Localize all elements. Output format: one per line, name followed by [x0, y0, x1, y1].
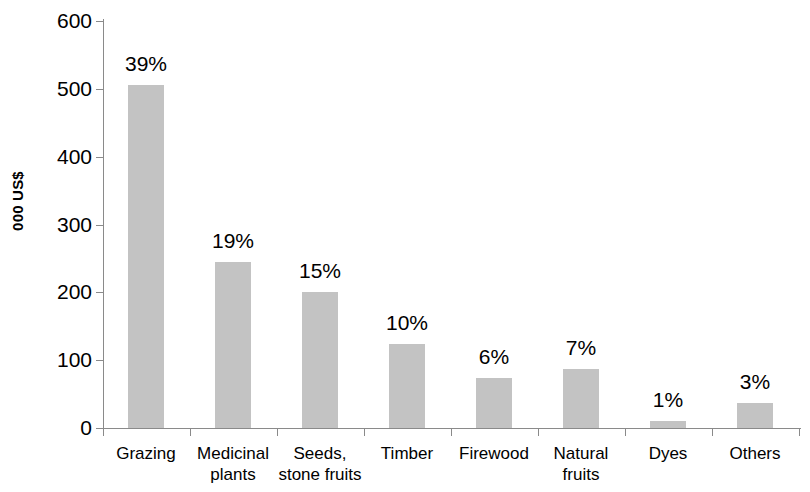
y-axis-tick-label: 0	[6, 417, 92, 438]
x-axis-category-label-4: Firewood	[445, 443, 544, 464]
bar-value-label-0: 39%	[101, 53, 191, 74]
bar-2	[302, 292, 338, 428]
x-axis-category-label-0: Grazing	[97, 443, 196, 464]
y-axis-tick-mark	[96, 292, 104, 293]
category-label-line: Firewood	[445, 443, 544, 464]
x-axis-category-label-1: Medicinalplants	[184, 443, 283, 485]
bar-0	[128, 85, 164, 428]
y-axis-tick-label: 600	[6, 10, 92, 31]
category-label-line: Others	[706, 443, 805, 464]
category-label-line: fruits	[532, 464, 631, 485]
category-label-line: Dyes	[619, 443, 718, 464]
bar-chart: 000 US$ 6005004003002001000 39%19%15%10%…	[0, 0, 810, 492]
x-axis-tick-mark	[625, 428, 626, 436]
bar-7	[737, 403, 773, 428]
x-axis-tick-mark	[538, 428, 539, 436]
y-axis-tick-mark	[96, 89, 104, 90]
x-axis-tick-mark	[799, 428, 800, 436]
category-label-line: Seeds,	[271, 443, 370, 464]
category-label-line: Timber	[358, 443, 457, 464]
bar-value-label-5: 7%	[536, 337, 626, 358]
bar-value-label-6: 1%	[623, 389, 713, 410]
plot-area: 6005004003002001000 39%19%15%10%6%7%1%3%…	[0, 0, 810, 492]
x-axis-line	[103, 428, 801, 429]
x-axis-category-label-7: Others	[706, 443, 805, 464]
x-axis-tick-mark	[712, 428, 713, 436]
bar-value-label-2: 15%	[275, 260, 365, 281]
category-label-line: Natural	[532, 443, 631, 464]
category-label-line: plants	[184, 464, 283, 485]
x-axis-tick-mark	[277, 428, 278, 436]
y-axis-tick-mark	[96, 360, 104, 361]
category-label-line: Medicinal	[184, 443, 283, 464]
y-axis-tick-label: 400	[6, 146, 92, 167]
category-label-line: Grazing	[97, 443, 196, 464]
bar-value-label-7: 3%	[710, 371, 800, 392]
category-label-line: stone fruits	[271, 464, 370, 485]
x-axis-tick-mark	[190, 428, 191, 436]
y-axis-tick-label: 300	[6, 214, 92, 235]
x-axis-tick-mark	[364, 428, 365, 436]
bar-6	[650, 421, 686, 428]
x-axis-category-label-6: Dyes	[619, 443, 718, 464]
y-axis-tick-mark	[96, 225, 104, 226]
bar-value-label-4: 6%	[449, 346, 539, 367]
x-axis-category-label-5: Naturalfruits	[532, 443, 631, 485]
x-axis-category-label-2: Seeds,stone fruits	[271, 443, 370, 485]
bar-value-label-1: 19%	[188, 230, 278, 251]
bar-5	[563, 369, 599, 428]
bar-3	[389, 344, 425, 428]
y-axis-tick-label: 200	[6, 281, 92, 302]
x-axis-category-label-3: Timber	[358, 443, 457, 464]
x-axis-tick-mark	[103, 428, 104, 436]
bar-value-label-3: 10%	[362, 312, 452, 333]
bar-1	[215, 262, 251, 428]
y-axis-tick-label: 500	[6, 78, 92, 99]
x-axis-tick-mark	[451, 428, 452, 436]
y-axis-tick-label: 100	[6, 349, 92, 370]
bar-4	[476, 378, 512, 428]
y-axis-tick-mark	[96, 157, 104, 158]
y-axis-tick-mark	[96, 21, 104, 22]
